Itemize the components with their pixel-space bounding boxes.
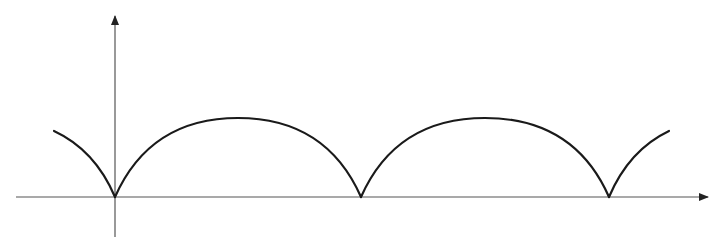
- diagram-canvas: [0, 0, 715, 247]
- function-graph: [0, 0, 715, 247]
- right-partial-arch: [609, 131, 669, 197]
- left-partial-arch: [54, 131, 115, 197]
- arch-2: [361, 118, 609, 197]
- arch-1: [115, 118, 361, 197]
- periodic-curve: [54, 118, 669, 197]
